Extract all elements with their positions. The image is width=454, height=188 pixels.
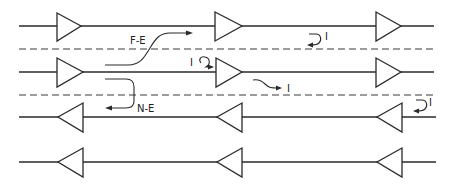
arrow-right-icon <box>208 65 214 70</box>
crosstalk-diagram: F-E N-E I I I I <box>0 0 454 188</box>
amplifier-right-icon <box>376 12 401 41</box>
amplifier-left-icon <box>217 103 242 132</box>
signal-line-3 <box>19 103 436 132</box>
interference-label-1: I <box>190 57 193 68</box>
amplifier-right-icon <box>216 58 242 87</box>
interference-loop-3: I <box>307 31 328 48</box>
amplifier-left-icon <box>58 103 83 132</box>
signal-line-2 <box>19 58 434 87</box>
amplifier-right-icon <box>215 12 242 41</box>
amplifier-left-icon <box>58 148 83 177</box>
amplifier-left-icon <box>377 148 402 177</box>
amplifier-left-icon <box>377 103 402 132</box>
arrow-left-icon <box>307 43 313 48</box>
arrow-left-icon <box>105 106 112 111</box>
arrow-right-icon <box>186 31 193 36</box>
interference-loop-1: I <box>190 57 214 70</box>
arrow-left-icon <box>413 109 419 114</box>
interference-label-3: I <box>325 31 328 42</box>
amplifier-right-icon <box>57 13 81 41</box>
signal-line-1 <box>19 12 434 41</box>
amplifier-left-icon <box>217 148 242 177</box>
interference-wave-2: I <box>253 80 290 94</box>
interference-label-4: I <box>429 97 432 108</box>
far-end-label: F-E <box>130 35 146 46</box>
interference-label-2: I <box>287 83 290 94</box>
amplifier-right-icon <box>376 58 401 87</box>
amplifier-right-icon <box>57 58 83 87</box>
far-end-crosstalk-path: F-E <box>105 31 193 66</box>
near-end-crosstalk-path: N-E <box>105 79 154 114</box>
arrow-right-icon <box>276 86 282 91</box>
near-end-label: N-E <box>137 103 154 114</box>
interference-loop-4: I <box>413 97 432 114</box>
signal-line-4 <box>19 148 436 177</box>
